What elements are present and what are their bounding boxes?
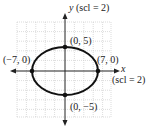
- point-label-left: (−7, 0): [3, 55, 30, 65]
- y-arrow-up-icon: [63, 13, 68, 19]
- point-bottom: [63, 93, 68, 98]
- point-right: [96, 69, 101, 74]
- x-arrow-left-icon: [10, 69, 16, 74]
- point-top: [63, 45, 68, 50]
- point-label-right: (7, 0): [97, 55, 119, 65]
- x-axis-var-label: x: [121, 64, 125, 74]
- x-arrow-right-icon: [114, 69, 120, 74]
- point-label-bottom: (0, −5): [70, 102, 97, 112]
- axes: [14, 18, 117, 122]
- point-label-top: (0, 5): [70, 36, 92, 46]
- y-axis-label: y (scl = 2): [69, 3, 109, 13]
- y-arrow-down-icon: [63, 120, 68, 126]
- x-axis-scale-label: (scl = 2): [112, 75, 145, 85]
- point-left: [30, 69, 35, 74]
